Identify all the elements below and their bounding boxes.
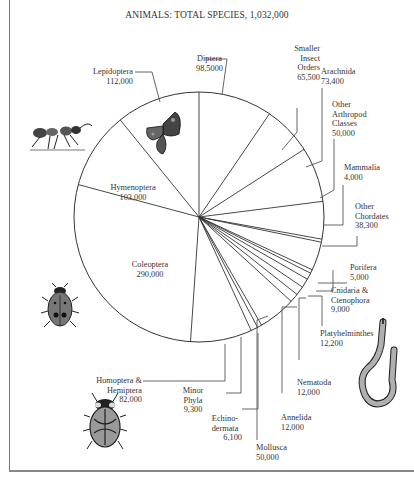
label-minor-phyla: Minor Phyla 9,300 bbox=[163, 386, 223, 415]
label-lepidoptera: Lepidoptera 112,000 bbox=[81, 67, 133, 86]
pie-slices bbox=[74, 92, 324, 342]
label-annelida: Annelida 12,000 bbox=[281, 413, 311, 432]
label-smaller-insect-orders: Smaller Insect Orders 65,500 bbox=[270, 44, 320, 82]
label-echinodermata: Echino- dermata 6,100 bbox=[208, 414, 242, 443]
label-hymenoptera: Hymenoptera 103,000 bbox=[98, 183, 168, 202]
label-diptera: Diptera 98,5000 bbox=[196, 54, 223, 73]
label-arachnida: Arachnida 73,400 bbox=[321, 67, 356, 86]
label-porifera: Porifera 5,000 bbox=[350, 263, 377, 282]
label-other-arthropod-classes: Other Arthropod Classes 50,000 bbox=[332, 100, 367, 138]
label-other-chordates: Other Chordates 38,300 bbox=[355, 202, 389, 231]
label-coleoptera: Coleoptera 290,000 bbox=[120, 260, 180, 279]
label-mammalia: Mammalia 4,000 bbox=[344, 163, 380, 182]
label-homoptera-hemiptera: Homoptera & Hemiptera 82,000 bbox=[80, 376, 142, 405]
ladybird-beetle-illustration bbox=[41, 283, 79, 327]
label-mollusca: Mollusca 50,000 bbox=[256, 443, 287, 462]
ant-illustration bbox=[30, 124, 92, 150]
label-cnidaria-ctenophora: Cnidaria & Ctenophora 9,000 bbox=[331, 286, 370, 315]
label-nematoda: Nematoda 12,000 bbox=[297, 378, 331, 397]
label-platyhelminthes: Platyhelminthes 12,200 bbox=[320, 329, 373, 348]
